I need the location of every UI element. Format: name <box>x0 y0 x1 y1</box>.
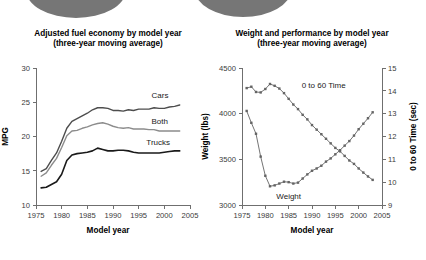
y2-tick-label: 9 <box>388 201 392 210</box>
series-label-cars: Cars <box>152 91 169 100</box>
x-tick-label: 2005 <box>374 211 391 220</box>
x-tick-label: 2000 <box>156 211 173 220</box>
x-axis-label: Model year <box>87 226 131 235</box>
panel-title: Weight and performance by model year <box>235 29 389 38</box>
y2-tick-label: 14 <box>388 87 396 96</box>
series-marker <box>297 181 299 183</box>
series-marker <box>259 91 261 93</box>
x-tick-label: 1995 <box>327 211 344 220</box>
series-marker <box>325 138 327 140</box>
series-marker <box>348 159 350 161</box>
series-marker <box>320 133 322 135</box>
series-marker <box>362 123 364 125</box>
series-marker <box>264 175 266 177</box>
y-axis-label: Weight (lbs) <box>201 113 210 160</box>
series-marker <box>287 181 289 183</box>
series-marker <box>245 110 247 112</box>
x-tick-label: 1975 <box>234 211 251 220</box>
x-tick-label: 1990 <box>304 211 321 220</box>
panel-title: Adjusted fuel economy by model year <box>34 29 182 38</box>
series-marker <box>278 87 280 89</box>
series-marker <box>357 167 359 169</box>
series-marker <box>362 171 364 173</box>
series-marker <box>297 108 299 110</box>
series-marker <box>367 117 369 119</box>
y-tick-label: 3000 <box>219 201 236 210</box>
y2-tick-label: 11 <box>388 155 396 164</box>
x-tick-label: 1985 <box>79 211 96 220</box>
x-tick-label: 1975 <box>28 211 45 220</box>
panel-subtitle: (three-year moving average) <box>257 39 367 48</box>
y2-tick-label: 13 <box>388 109 396 118</box>
series-marker <box>325 160 327 162</box>
x-tick-label: 1990 <box>105 211 122 220</box>
series-marker <box>245 87 247 89</box>
series-marker <box>353 163 355 165</box>
y2-tick-label: 15 <box>388 64 396 73</box>
series-marker <box>306 173 308 175</box>
series-label-0-to-60-time: 0 to 60 Time <box>302 81 347 90</box>
x-axis-label: Model year <box>291 226 335 235</box>
series-marker <box>255 91 257 93</box>
series-marker <box>329 142 331 144</box>
series-marker <box>315 167 317 169</box>
series-marker <box>273 184 275 186</box>
series-marker <box>278 182 280 184</box>
y-tick-label: 15 <box>22 167 30 176</box>
series-marker <box>292 103 294 105</box>
series-marker <box>250 122 252 124</box>
y2-tick-label: 12 <box>388 132 396 141</box>
series-marker <box>287 98 289 100</box>
x-tick-label: 1980 <box>257 211 274 220</box>
x-tick-label: 1995 <box>130 211 147 220</box>
series-marker <box>343 155 345 157</box>
series-marker <box>371 111 373 113</box>
two-panel-figure: Adjusted fuel economy by model year(thre… <box>0 0 426 260</box>
series-marker <box>283 92 285 94</box>
x-tick-label: 2000 <box>350 211 367 220</box>
series-label-trucks: Trucks <box>146 138 170 147</box>
series-label-weight: Weight <box>276 192 302 201</box>
y-tick-label: 20 <box>22 132 30 141</box>
series-marker <box>311 170 313 172</box>
y-tick-label: 10 <box>22 201 30 210</box>
series-marker <box>339 150 341 152</box>
series-marker <box>269 185 271 187</box>
x-tick-label: 2005 <box>182 211 199 220</box>
series-marker <box>334 147 336 149</box>
y2-axis-label: 0 to 60 Time (sec) <box>409 102 418 171</box>
series-marker <box>367 175 369 177</box>
x-tick-label: 1985 <box>280 211 297 220</box>
series-marker <box>306 118 308 120</box>
series-marker <box>283 181 285 183</box>
y-tick-label: 4000 <box>219 109 236 118</box>
series-marker <box>357 128 359 130</box>
series-marker <box>371 179 373 181</box>
y2-tick-label: 10 <box>388 178 396 187</box>
y-tick-label: 25 <box>22 98 30 107</box>
series-marker <box>250 86 252 88</box>
series-marker <box>320 165 322 167</box>
series-marker <box>329 157 331 159</box>
y-tick-label: 30 <box>22 64 30 73</box>
series-marker <box>334 153 336 155</box>
series-marker <box>264 88 266 90</box>
series-marker <box>353 134 355 136</box>
series-label-both: Both <box>152 117 168 126</box>
series-marker <box>255 133 257 135</box>
series-marker <box>259 155 261 157</box>
series-marker <box>292 182 294 184</box>
y-tick-label: 4500 <box>219 64 236 73</box>
series-marker <box>301 177 303 179</box>
y-tick-label: 3500 <box>219 155 236 164</box>
x-tick-label: 1980 <box>53 211 70 220</box>
panel-subtitle: (three-year moving average) <box>53 39 163 48</box>
series-marker <box>301 114 303 116</box>
series-marker <box>315 128 317 130</box>
y-axis-label: MPG <box>1 127 10 146</box>
series-marker <box>269 83 271 85</box>
series-marker <box>311 124 313 126</box>
series-marker <box>273 85 275 87</box>
series-marker <box>348 140 350 142</box>
series-marker <box>343 144 345 146</box>
